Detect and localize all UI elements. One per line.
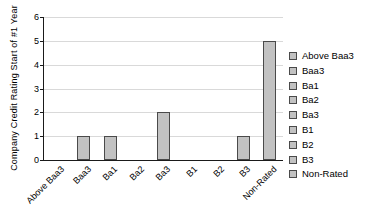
y-tick-mark	[40, 65, 43, 66]
gridline	[44, 41, 283, 42]
y-tick-label: 2	[24, 108, 39, 117]
gridline	[44, 17, 283, 18]
legend-label: B2	[302, 140, 314, 150]
legend-item: B3	[289, 155, 314, 165]
y-tick-label: 0	[24, 156, 39, 165]
legend-marker-icon	[289, 170, 297, 178]
x-tick-label: B3	[237, 164, 252, 179]
y-axis-line	[43, 17, 44, 160]
credit-rating-bar-chart: Company Credit Rating Start of #1 Year 0…	[0, 0, 365, 216]
legend-label: Ba3	[302, 110, 319, 120]
legend-marker-icon	[289, 96, 297, 104]
legend-label: Ba1	[302, 81, 319, 91]
gridline	[44, 65, 283, 66]
y-tick-label: 3	[24, 85, 39, 94]
x-tick-label: Above Baa3	[25, 164, 67, 206]
legend-label: Ba2	[302, 95, 319, 105]
y-tick-mark	[40, 89, 43, 90]
legend-item: Non-Rated	[289, 169, 348, 179]
y-tick-label: 4	[24, 61, 39, 70]
plot-area	[44, 17, 283, 160]
bar-baa3	[77, 136, 90, 160]
bar-b3	[237, 136, 250, 160]
y-tick-mark	[40, 41, 43, 42]
legend-item: Ba3	[289, 110, 319, 120]
y-tick-mark	[40, 160, 43, 161]
legend-marker-icon	[289, 52, 297, 60]
y-tick-mark	[40, 17, 43, 18]
x-tick-label: Ba2	[128, 164, 146, 182]
x-tick-label: Ba3	[154, 164, 172, 182]
y-tick-label: 1	[24, 132, 39, 141]
legend-item: B2	[289, 140, 314, 150]
legend-item: Ba1	[289, 81, 319, 91]
bar-ba1	[104, 136, 117, 160]
legend-item: Baa3	[289, 66, 324, 76]
legend-marker-icon	[289, 126, 297, 134]
legend-marker-icon	[289, 141, 297, 149]
x-axis-line	[43, 160, 283, 161]
x-tick-label: B2	[211, 164, 226, 179]
x-tick-label: B1	[184, 164, 199, 179]
legend-label: B3	[302, 155, 314, 165]
y-tick-mark	[40, 112, 43, 113]
legend-item: Ba2	[289, 95, 319, 105]
legend-label: Non-Rated	[302, 169, 348, 179]
y-tick-label: 6	[24, 13, 39, 22]
legend-item: Above Baa3	[289, 51, 354, 61]
y-axis-title: Company Credit Rating Start of #1 Year	[9, 5, 19, 171]
y-tick-label: 5	[24, 37, 39, 46]
legend-item: B1	[289, 125, 314, 135]
x-tick-label: Baa3	[71, 164, 93, 186]
y-tick-mark	[40, 136, 43, 137]
legend-marker-icon	[289, 111, 297, 119]
bar-ba3	[157, 112, 170, 160]
legend-label: B1	[302, 125, 314, 135]
legend-label: Baa3	[302, 66, 324, 76]
x-tick-label: Ba1	[101, 164, 119, 182]
bar-non-rated	[263, 41, 276, 160]
legend-marker-icon	[289, 67, 297, 75]
legend-label: Above Baa3	[302, 51, 354, 61]
legend-marker-icon	[289, 156, 297, 164]
legend-marker-icon	[289, 82, 297, 90]
gridline	[44, 89, 283, 90]
